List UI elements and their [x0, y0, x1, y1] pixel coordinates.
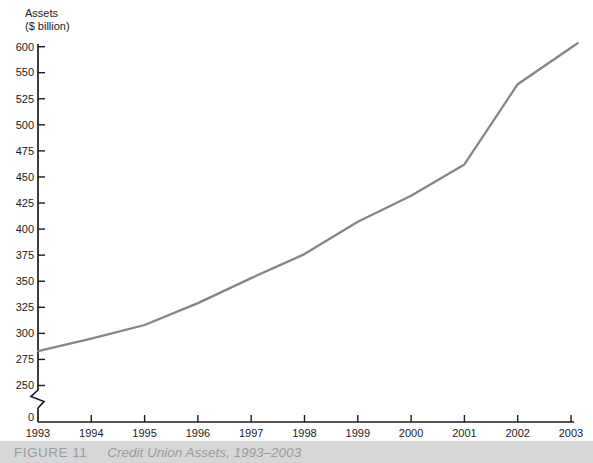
y-tick-label: 550: [16, 66, 34, 78]
y-tick-label: 525: [16, 93, 34, 105]
line-chart: 6005505255004754504254003753503253002752…: [0, 0, 593, 441]
y-tick-label: 300: [16, 327, 34, 339]
x-tick-label: 2002: [505, 427, 529, 439]
y-tick-label: 475: [16, 145, 34, 157]
y-tick-label: 375: [16, 249, 34, 261]
x-tick-label: 2000: [399, 427, 423, 439]
x-tick-label: 1998: [292, 427, 316, 439]
figure-caption-band: FIGURE 11Credit Union Assets, 1993–2003: [0, 441, 593, 463]
x-tick-label: 1999: [346, 427, 370, 439]
x-tick-label: 2001: [452, 427, 476, 439]
x-tick-label: 2003: [559, 427, 583, 439]
figure-caption-label: FIGURE 11: [14, 445, 87, 460]
x-tick-label: 1996: [186, 427, 210, 439]
x-tick-label: 1994: [79, 427, 103, 439]
x-tick-label: 1993: [26, 427, 50, 439]
x-tick-label: 1995: [132, 427, 156, 439]
y-tick-label: 250: [16, 379, 34, 391]
y-tick-label: 275: [16, 353, 34, 365]
figure-caption: FIGURE 11Credit Union Assets, 1993–2003: [0, 441, 593, 461]
y-tick-label: 500: [16, 119, 34, 131]
x-tick-label: 1997: [239, 427, 263, 439]
y-axis-break: [31, 390, 44, 408]
figure-caption-title: Credit Union Assets, 1993–2003: [107, 445, 301, 460]
assets-series-line: [38, 43, 578, 351]
y-tick-label: 325: [16, 301, 34, 313]
y-origin-label: 0: [28, 411, 34, 423]
y-tick-label: 425: [16, 197, 34, 209]
y-tick-label: 350: [16, 275, 34, 287]
y-tick-label: 450: [16, 171, 34, 183]
y-tick-label: 400: [16, 223, 34, 235]
y-tick-label: 600: [16, 41, 34, 53]
